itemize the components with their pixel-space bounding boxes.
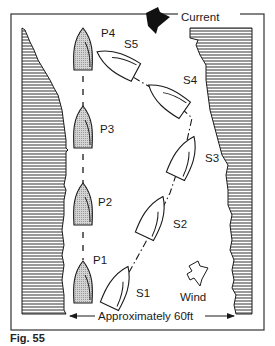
figure-caption: Fig. 55 [10, 332, 45, 344]
port-boat-p4 [74, 28, 93, 70]
river-diagram: Current P4 P3 P2 P1 S1 S2 S3 [0, 0, 275, 346]
boat-label-p2: P2 [98, 196, 112, 208]
port-boat-p2 [74, 183, 93, 225]
wind-label: Wind [180, 291, 206, 303]
starboard-boat-s1 [100, 262, 137, 311]
boat-label-s1: S1 [136, 287, 150, 299]
current-arrow-icon [146, 7, 170, 34]
boat-label-p1: P1 [93, 254, 107, 266]
width-dimension-label: Approximately 60ft [98, 310, 194, 322]
boat-label-s4: S4 [183, 74, 198, 86]
starboard-boat-s2 [135, 192, 172, 241]
left-riverbank [22, 28, 68, 314]
boat-label-s5: S5 [124, 38, 138, 50]
current-label: Current [181, 11, 220, 23]
port-boat-p1 [74, 261, 93, 303]
wind-arrow-icon [187, 261, 208, 286]
boat-label-p3: P3 [100, 123, 114, 135]
port-boat-p3 [74, 106, 93, 148]
starboard-boat-s3 [166, 132, 203, 181]
boat-label-p4: P4 [101, 27, 116, 39]
boat-label-s3: S3 [205, 152, 219, 164]
boat-label-s2: S2 [173, 218, 187, 230]
